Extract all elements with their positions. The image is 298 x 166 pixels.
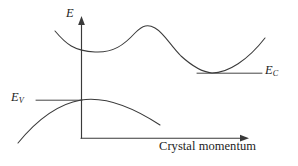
conduction-band-curve bbox=[55, 26, 265, 73]
band-diagram-figure: E EC EV Crystal momentum bbox=[0, 0, 298, 166]
valence-band-symbol: E bbox=[11, 90, 19, 104]
conduction-band-level-label: EC bbox=[265, 64, 278, 79]
conduction-band-symbol: E bbox=[265, 63, 273, 77]
energy-axis-symbol: E bbox=[66, 6, 74, 20]
momentum-axis-label: Crystal momentum bbox=[159, 140, 256, 153]
valence-band-level-label: EV bbox=[11, 91, 24, 106]
energy-axis-arrowhead bbox=[78, 16, 85, 25]
valence-band-subscript: V bbox=[19, 96, 24, 105]
conduction-band-subscript: C bbox=[273, 69, 279, 78]
valence-band-curve bbox=[18, 99, 160, 143]
energy-axis-label: E bbox=[66, 7, 74, 20]
